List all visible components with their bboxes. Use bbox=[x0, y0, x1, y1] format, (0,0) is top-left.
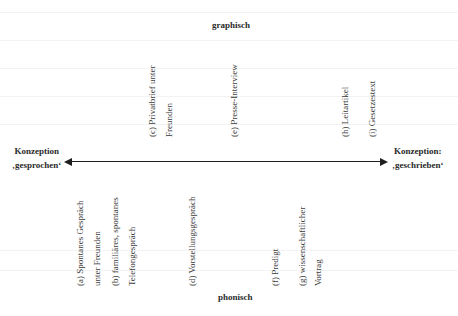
item-c-line2: Freunden bbox=[164, 103, 174, 137]
item-b-line1: (b) familiäres, spontanes bbox=[110, 197, 120, 286]
left-pole-line1: Konzeption bbox=[12, 144, 61, 158]
background-line bbox=[0, 270, 458, 271]
item-e-line1: (e) Presse-Interview bbox=[229, 64, 239, 137]
left-pole-line2: ‚gesprochen‘ bbox=[12, 158, 61, 172]
conception-axis bbox=[70, 161, 382, 162]
arrow-right-head-icon bbox=[380, 158, 388, 166]
background-line bbox=[0, 250, 458, 251]
item-a-line1: (a) Spontanes Gespräch bbox=[75, 201, 85, 286]
background-line bbox=[0, 12, 458, 13]
item-a-line2: unter Freunden bbox=[92, 231, 102, 286]
right-pole-line1: Konzeption: bbox=[392, 144, 444, 158]
top-pole-label: graphisch bbox=[212, 20, 250, 30]
item-c-line1: (c) Privatbrief unter bbox=[147, 66, 157, 137]
item-h-line1: (h) Leitartikel bbox=[340, 87, 350, 137]
item-i-line1: (i) Gesetzestext bbox=[367, 81, 377, 137]
right-pole-label: Konzeption: ‚geschrieben‘ bbox=[392, 144, 444, 172]
bottom-pole-label: phonisch bbox=[218, 292, 253, 302]
item-f-line1: (f) Predigt bbox=[270, 249, 280, 286]
item-g-line2: Vortrag bbox=[313, 259, 323, 286]
item-g-line1: (g) wissenschaftlicher bbox=[297, 207, 307, 286]
background-line bbox=[0, 40, 458, 41]
item-d-line1: (d) Vorstellungsgespräch bbox=[187, 197, 197, 286]
left-pole-label: Konzeption ‚gesprochen‘ bbox=[12, 144, 61, 172]
right-pole-line2: ‚geschrieben‘ bbox=[392, 158, 444, 172]
item-b-line2: Telefongespräch bbox=[127, 227, 137, 286]
